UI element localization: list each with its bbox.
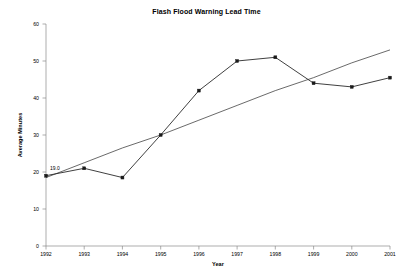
chart-container: Flash Flood Warning Lead Time 60 50 40 3… (0, 0, 413, 270)
x-tick-label: 1993 (78, 251, 90, 257)
data-point (121, 176, 124, 179)
x-tick-label: 2001 (384, 251, 396, 257)
y-tick-label: 60 (33, 21, 39, 27)
y-tick-label: 30 (33, 132, 39, 138)
data-point (159, 134, 162, 137)
y-tick-label: 10 (33, 206, 39, 212)
x-tick-label: 1996 (193, 251, 205, 257)
x-tick-label: 1992 (40, 251, 52, 257)
y-tick-label: 20 (33, 169, 39, 175)
x-axis-tick-labels: 1992 1993 1994 1995 1996 1997 1998 1999 … (40, 251, 396, 257)
data-line-series (46, 57, 390, 177)
x-tick-label: 2000 (346, 251, 358, 257)
data-point-annotation: 19.0 (50, 165, 60, 171)
data-point (274, 56, 277, 59)
y-axis-ticks (43, 24, 47, 246)
data-point (350, 85, 353, 88)
x-tick-label: 1997 (231, 251, 243, 257)
y-tick-label: 50 (33, 58, 39, 64)
y-axis-title: Average Minutes (17, 113, 23, 158)
data-point (389, 76, 392, 79)
trend-line-series (46, 50, 390, 178)
data-point-markers (45, 56, 392, 179)
x-axis-title: Year (212, 261, 225, 267)
data-point (236, 60, 239, 63)
y-tick-label: 40 (33, 95, 39, 101)
y-tick-label: 0 (36, 243, 39, 249)
data-point (45, 174, 48, 177)
x-axis-ticks (46, 246, 390, 250)
x-tick-label: 1998 (270, 251, 282, 257)
y-axis-tick-labels: 60 50 40 30 20 10 0 (33, 21, 39, 249)
data-point (197, 89, 200, 92)
data-point (83, 167, 86, 170)
x-tick-label: 1999 (308, 251, 320, 257)
x-tick-label: 1995 (155, 251, 167, 257)
chart-plot: 60 50 40 30 20 10 0 Average Minutes 1992 (0, 0, 413, 270)
x-tick-label: 1994 (117, 251, 129, 257)
data-point (312, 82, 315, 85)
